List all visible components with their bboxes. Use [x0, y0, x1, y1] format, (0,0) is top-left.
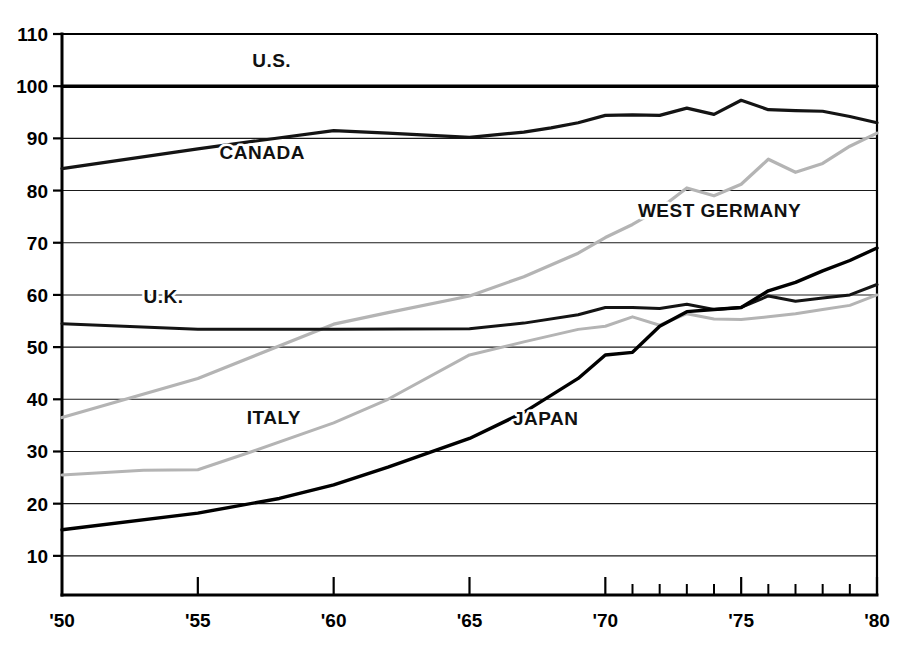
- y-tick-labels: 102030405060708090100110: [16, 24, 48, 567]
- y-tick-label-90: 90: [27, 128, 48, 149]
- y-tick-label-80: 80: [27, 181, 48, 202]
- series-label-canada: CANADA: [220, 142, 305, 163]
- y-tick-label-50: 50: [27, 337, 48, 358]
- y-tick-label-60: 60: [27, 285, 48, 306]
- series-label-japan: JAPAN: [513, 408, 579, 429]
- series-label-u-s: U.S.: [252, 50, 291, 71]
- chart-container: 102030405060708090100110 '50'55'60'65'70…: [0, 0, 911, 663]
- y-tick-label-30: 30: [27, 441, 48, 462]
- y-tick-label-20: 20: [27, 494, 48, 515]
- y-tick-label-70: 70: [27, 233, 48, 254]
- y-tick-label-110: 110: [17, 24, 48, 45]
- y-tick-label-10: 10: [27, 546, 48, 567]
- series-label-west-germany: WEST GERMANY: [638, 200, 801, 221]
- plot-background: [62, 34, 877, 595]
- series-label-italy: ITALY: [247, 407, 301, 428]
- y-tick-label-100: 100: [16, 76, 48, 97]
- x-tick-label-75: '75: [728, 610, 754, 631]
- series-label-u-k: U.K.: [144, 286, 184, 307]
- x-tick-label-65: '65: [457, 610, 483, 631]
- x-tick-label-60: '60: [321, 610, 347, 631]
- x-tick-label-55: '55: [185, 610, 211, 631]
- x-tick-label-80: '80: [864, 610, 890, 631]
- line-chart: 102030405060708090100110 '50'55'60'65'70…: [0, 0, 911, 663]
- x-tick-label-50: '50: [49, 610, 75, 631]
- x-tick-label-70: '70: [593, 610, 619, 631]
- x-tick-labels: '50'55'60'65'70'75'80: [49, 610, 890, 631]
- y-tick-label-40: 40: [27, 389, 48, 410]
